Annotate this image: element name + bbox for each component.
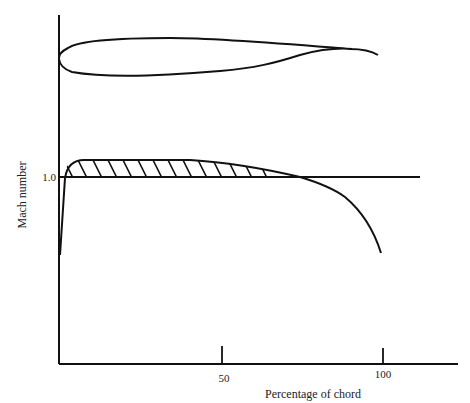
y-axis-title: Mach number xyxy=(15,162,29,229)
x-axis-title: Percentage of chord xyxy=(265,387,361,401)
x-tick-label-50: 50 xyxy=(219,372,231,384)
x-tick-label-100: 100 xyxy=(375,368,392,380)
y-tick-label-1: 1.0 xyxy=(42,171,56,183)
mach-distribution-diagram: 1.0 Mach number 50 100 Percentage of cho… xyxy=(0,0,470,403)
airfoil-section xyxy=(59,38,378,76)
